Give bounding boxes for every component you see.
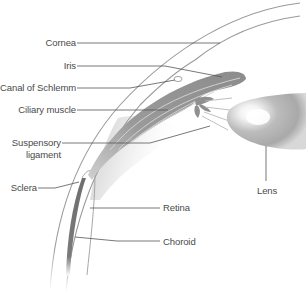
label-ciliary-muscle: Ciliary muscle: [0, 104, 76, 115]
label-suspensory-line1: Suspensory: [0, 137, 61, 148]
label-retina: Retina: [163, 202, 190, 213]
sclera-outer-outline: [50, 3, 300, 291]
lens-highlight: [246, 109, 270, 125]
canal-of-schlemm: [174, 76, 182, 81]
label-canal-of-schlemm: Canal of Schlemm: [0, 82, 76, 93]
label-lens: Lens: [257, 185, 277, 196]
eye-anatomy-diagram: Cornea Iris Canal of Schlemm Ciliary mus…: [0, 0, 306, 291]
label-sclera: Sclera: [0, 182, 37, 193]
label-suspensory-line2: ligament: [0, 149, 61, 160]
ciliary-striations: [110, 78, 240, 150]
label-choroid: Choroid: [163, 236, 196, 247]
label-cornea: Cornea: [0, 37, 76, 48]
cornea-inner-outline: [140, 16, 300, 105]
choroid-leader: [75, 237, 160, 241]
canal-leader: [77, 80, 175, 88]
label-iris: Iris: [0, 60, 76, 71]
